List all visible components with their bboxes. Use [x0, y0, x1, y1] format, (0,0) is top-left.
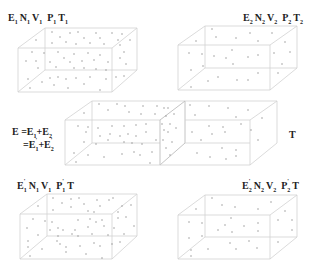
system2-particles-top: [188, 28, 290, 87]
combined-box-left: [65, 101, 185, 165]
system1-particles-bottom: [26, 197, 134, 258]
combined-box-right: [160, 101, 277, 165]
system1-box-top: [18, 28, 137, 92]
system1-particles-top: [25, 31, 130, 90]
diagram-canvas: [0, 0, 313, 272]
system2-box-bottom: [178, 195, 297, 259]
combined-particles-right: [161, 104, 262, 159]
combined-particles-left: [73, 103, 176, 163]
system2-particles-bottom: [188, 197, 292, 256]
system1-box-bottom: [20, 194, 137, 259]
diathermal-wall: [160, 101, 185, 165]
